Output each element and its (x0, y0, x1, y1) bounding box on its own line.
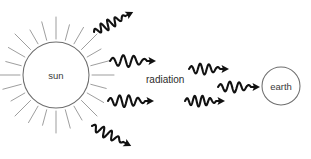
wave-line (92, 9, 132, 36)
wave-arrow-head (123, 139, 133, 150)
wave-line (110, 55, 152, 67)
sun-ray (87, 93, 103, 103)
sun-ray (43, 110, 47, 125)
sun-label: sun (48, 70, 63, 81)
sun-ray (81, 34, 97, 50)
wave-line (189, 64, 225, 75)
wave-right-lower (185, 96, 225, 107)
radiation-label: radiation (146, 74, 184, 85)
wave-line (90, 122, 130, 149)
wave-down-left (90, 122, 134, 151)
sun-ray (29, 106, 39, 122)
wave-line (185, 96, 221, 107)
sun-ray (15, 34, 31, 50)
wave-right-center (218, 82, 260, 93)
sun-ray (74, 27, 84, 43)
sun-ray (3, 84, 21, 89)
sun-ray (65, 110, 70, 128)
sun-ray (6, 62, 21, 66)
wave-line (108, 95, 150, 107)
sun-ray (87, 49, 101, 57)
sun-ray (11, 93, 25, 101)
sun-ray (30, 30, 38, 44)
wave-up-left (92, 8, 136, 37)
sun-ray (15, 100, 31, 116)
sun-ray (91, 84, 106, 88)
wave-mid-lower (108, 95, 154, 107)
sun-ray (65, 25, 69, 40)
sun-ray (91, 61, 109, 66)
sun-ray (8, 48, 24, 58)
wave-arrow-head (125, 8, 135, 19)
wave-right-upper (189, 64, 229, 75)
wave-mid-upper (110, 55, 156, 67)
sun-ray (42, 22, 47, 40)
wave-line (218, 82, 256, 93)
sun-ray (81, 100, 97, 116)
sun-ray (74, 106, 82, 120)
diagram-canvas: sunearth radiation (0, 0, 311, 159)
earth-label: earth (270, 81, 292, 92)
radiation-diagram: sunearth radiation (0, 0, 311, 159)
